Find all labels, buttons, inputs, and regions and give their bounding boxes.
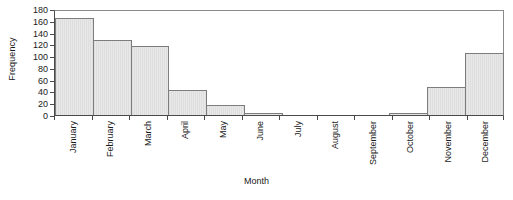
y-axis-tick-label: 0 bbox=[43, 112, 48, 121]
x-axis-tick-label-text: September bbox=[368, 121, 377, 165]
y-axis-tick-label: 120 bbox=[33, 41, 48, 50]
x-axis-tick bbox=[429, 116, 467, 120]
y-axis-tick-label: 20 bbox=[38, 100, 48, 109]
y-axis-tick-label: 160 bbox=[33, 17, 48, 26]
x-axis-tick-label-text: October bbox=[406, 121, 415, 153]
y-axis-tick bbox=[50, 45, 54, 46]
x-axis-tick-label: April bbox=[167, 121, 205, 175]
x-axis-tick-label: July bbox=[279, 121, 317, 175]
y-axis-tick bbox=[50, 104, 54, 105]
x-axis-tick-label: September bbox=[354, 121, 392, 175]
bar bbox=[465, 53, 504, 115]
x-axis-tick bbox=[54, 116, 92, 120]
x-axis-tick bbox=[317, 116, 355, 120]
histogram-chart: Frequency 020406080100120140160180 Janua… bbox=[0, 0, 513, 200]
x-axis-tick-label-text: December bbox=[481, 121, 490, 163]
bar bbox=[168, 90, 207, 115]
y-axis-tick-label: 40 bbox=[38, 88, 48, 97]
bar bbox=[389, 113, 428, 115]
x-axis-tick-label-text: July bbox=[293, 121, 302, 137]
x-axis-ticks bbox=[54, 116, 504, 120]
x-axis-tick-label: May bbox=[204, 121, 242, 175]
y-axis-title-text: Frequency bbox=[7, 37, 17, 80]
y-axis-tick bbox=[50, 57, 54, 58]
x-axis-tick-labels: JanuaryFebruaryMarchAprilMayJuneJulyAugu… bbox=[54, 121, 504, 175]
x-axis-tick bbox=[392, 116, 430, 120]
x-axis-tick-label-text: May bbox=[218, 121, 227, 138]
x-axis-tick-label: February bbox=[92, 121, 130, 175]
y-axis-tick-label: 80 bbox=[38, 64, 48, 73]
bar bbox=[427, 87, 466, 115]
x-axis-tick-label-text: June bbox=[256, 121, 265, 141]
y-axis-tick-label: 60 bbox=[38, 76, 48, 85]
x-axis-tick-label: June bbox=[242, 121, 280, 175]
x-axis-title: Month bbox=[0, 176, 513, 186]
x-axis-tick-label: December bbox=[467, 121, 505, 175]
x-axis-tick-label-text: March bbox=[143, 121, 152, 146]
x-axis-tick-label: November bbox=[429, 121, 467, 175]
bar bbox=[206, 105, 245, 115]
y-axis-tick bbox=[50, 81, 54, 82]
x-axis-tick-label-text: February bbox=[106, 121, 115, 157]
x-axis-tick bbox=[467, 116, 505, 120]
bar bbox=[131, 46, 170, 115]
bar bbox=[244, 113, 283, 115]
y-axis-tick-labels: 020406080100120140160180 bbox=[22, 6, 48, 116]
x-axis-tick-label-text: January bbox=[68, 121, 77, 153]
y-axis-tick bbox=[50, 10, 54, 11]
y-axis-title: Frequency bbox=[2, 0, 22, 118]
x-axis-tick bbox=[279, 116, 317, 120]
y-axis-tick bbox=[50, 116, 54, 117]
x-axis-tick bbox=[204, 116, 242, 120]
bar bbox=[93, 40, 132, 115]
y-axis-tick bbox=[50, 92, 54, 93]
x-axis-tick-label-text: August bbox=[331, 121, 340, 149]
y-axis-tick bbox=[50, 69, 54, 70]
x-axis-tick bbox=[129, 116, 167, 120]
y-axis-tick-label: 180 bbox=[33, 6, 48, 15]
bar-series bbox=[55, 11, 503, 115]
y-axis-tick bbox=[50, 22, 54, 23]
x-axis-tick-label-text: April bbox=[181, 121, 190, 139]
y-axis-tick-label: 140 bbox=[33, 29, 48, 38]
x-axis-tick-label-text: November bbox=[443, 121, 452, 163]
x-axis-tick-label: October bbox=[392, 121, 430, 175]
bar bbox=[55, 18, 94, 115]
y-axis-tick bbox=[50, 34, 54, 35]
x-axis-tick-label: March bbox=[129, 121, 167, 175]
x-axis-tick bbox=[354, 116, 392, 120]
x-axis-tick-label: January bbox=[54, 121, 92, 175]
x-axis-tick bbox=[167, 116, 205, 120]
y-axis-tick-label: 100 bbox=[33, 53, 48, 62]
x-axis-tick-label: August bbox=[317, 121, 355, 175]
x-axis-tick bbox=[242, 116, 280, 120]
x-axis-tick bbox=[92, 116, 130, 120]
plot-area bbox=[54, 10, 504, 116]
